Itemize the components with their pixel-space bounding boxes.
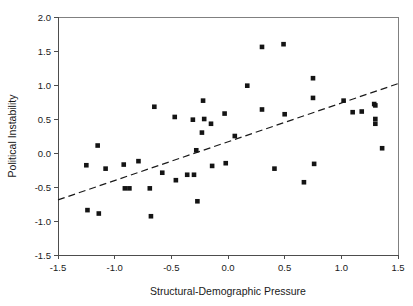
x-tick-label: 0.5 [278,262,291,273]
data-point-marker [341,98,346,103]
data-point-marker [172,115,177,120]
y-tick-label: -1.5 [35,250,51,261]
data-point-marker [350,110,355,115]
data-point-marker [191,117,196,122]
data-point-marker [260,107,265,112]
data-point-marker [103,166,108,171]
x-tick-label: -1.0 [106,262,122,273]
data-point-marker [121,162,126,167]
data-point-marker [233,134,238,139]
y-tick-label: 1.0 [38,80,51,91]
data-point-marker [222,111,227,116]
data-point-marker [192,172,197,177]
data-point-marker [185,172,190,177]
data-series-observations [84,42,384,219]
x-axis-title: Structural-Demographic Pressure [150,285,306,297]
data-point-marker [85,208,90,213]
data-point-marker [200,130,205,135]
data-point-marker [174,178,179,183]
data-point-marker [195,199,200,204]
data-point-marker [160,170,165,175]
data-point-marker [223,161,228,166]
data-point-marker [373,121,378,126]
y-tick-label: -1.0 [35,216,51,227]
data-point-marker [245,83,250,88]
data-point-marker [84,163,89,168]
y-tick-label: 2.0 [38,12,51,23]
data-point-marker [123,186,128,191]
data-point-marker [149,214,154,219]
data-point-marker [127,186,132,191]
data-point-marker [281,42,286,47]
data-point-marker [282,112,287,117]
data-point-marker [202,117,207,122]
data-point-marker [302,180,307,185]
x-tick-label: 0.0 [221,262,234,273]
chart-canvas: -1.5-1.0-0.50.00.51.01.52.0-1.5-1.0-0.50… [0,0,413,306]
y-tick-label: -0.5 [35,182,51,193]
data-point-marker [95,143,100,148]
x-tick-label: 1.5 [391,262,404,273]
data-point-marker [312,162,317,167]
y-tick-label: 0.0 [38,148,51,159]
x-tick-label: -0.5 [163,262,179,273]
data-point-marker [380,146,385,151]
data-point-marker [260,45,265,50]
y-axis-title: Political Instability [6,94,18,178]
data-point-marker [272,166,277,171]
data-point-marker [136,159,141,164]
data-point-marker [209,121,214,126]
data-point-marker [311,96,316,101]
trend-line [58,84,398,200]
data-point-marker [201,98,206,103]
data-point-marker [359,109,364,114]
data-point-marker [210,164,215,169]
data-point-marker [373,117,378,122]
data-point-marker [152,104,157,109]
y-tick-label: 1.5 [38,46,51,57]
y-tick-label: 0.5 [38,114,51,125]
data-point-marker [97,211,102,216]
x-tick-label: -1.5 [50,262,66,273]
scatter-plot-figure: -1.5-1.0-0.50.00.51.01.52.0-1.5-1.0-0.50… [0,0,413,306]
x-tick-label: 1.0 [335,262,348,273]
data-point-marker [148,186,153,191]
data-point-marker [311,76,316,81]
data-point-marker [373,103,378,108]
data-point-marker [194,148,199,153]
